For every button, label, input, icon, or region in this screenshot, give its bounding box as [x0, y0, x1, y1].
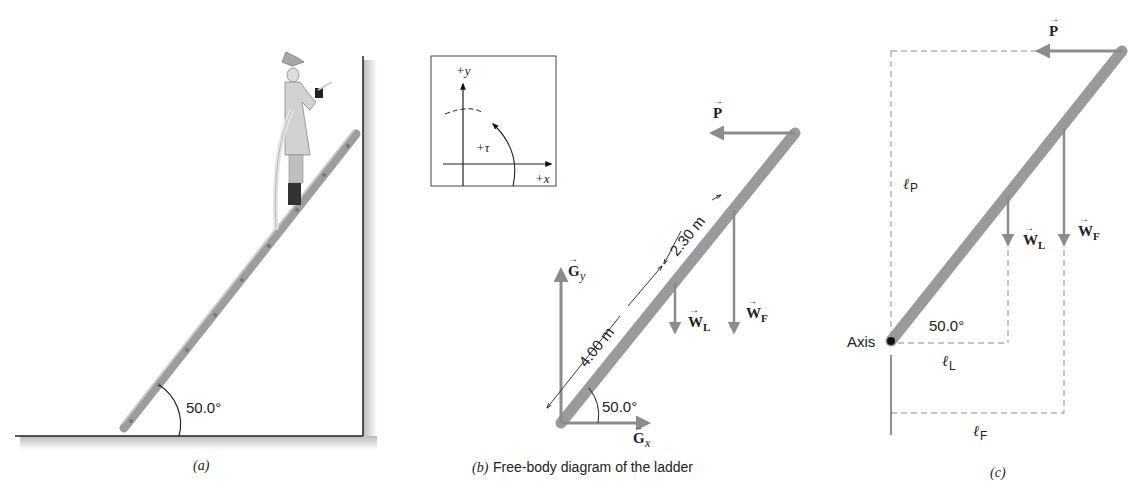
angle-label-b: 50.0°: [602, 398, 637, 415]
ladder-figure: 50.0° (a) +y +x +τ 4.00 m: [0, 0, 1144, 497]
angle-label: 50.0°: [186, 399, 221, 416]
ladder-bar: [561, 133, 795, 423]
svg-text:L: L: [703, 321, 710, 333]
ladder-bar-c: [891, 51, 1122, 341]
svg-text:P: P: [713, 105, 722, 121]
svg-text:y: y: [579, 269, 586, 283]
svg-text:F: F: [980, 429, 987, 443]
svg-text:W: W: [746, 305, 761, 321]
svg-text:ℓ: ℓ: [973, 423, 979, 439]
ladder: [122, 130, 356, 428]
label-P: P →: [713, 95, 723, 121]
svg-text:P: P: [1049, 23, 1058, 39]
label-Gx: G x →: [633, 421, 651, 450]
svg-text:→: →: [1079, 213, 1089, 224]
axes-legend-box: +y +x +τ: [431, 56, 556, 186]
floor-shadow: [20, 436, 377, 450]
svg-text:ℓ: ℓ: [942, 353, 948, 369]
svg-text:W: W: [1078, 223, 1093, 239]
wall-shadow: [363, 60, 377, 440]
panel-b: +y +x +τ 4.00 m 2.30 m 50.0° P →: [431, 56, 795, 476]
panel-c: P → W L → W F → ℓ P ℓ L ℓ F 50.0° Axis (…: [847, 13, 1122, 481]
lever-arm-lL: ℓ L: [942, 353, 956, 373]
label-WL-c: W L →: [1023, 222, 1045, 251]
lever-arm-lP: ℓ P: [903, 176, 918, 195]
label-WF-c: W F →: [1078, 213, 1100, 242]
label-Gy: G y →: [568, 253, 586, 283]
caption-a: (a): [193, 458, 210, 474]
svg-text:G: G: [633, 430, 645, 446]
caption-b-prefix: (b): [472, 460, 489, 476]
svg-text:x: x: [644, 436, 651, 450]
lever-arm-lF: ℓ F: [973, 423, 987, 443]
axis-pivot-point: [887, 337, 895, 345]
dim-2-30m-upper: [712, 195, 721, 200]
y-axis-label: +y: [456, 63, 471, 78]
svg-text:→: →: [1024, 222, 1034, 233]
svg-text:F: F: [1093, 230, 1100, 242]
svg-text:→: →: [1049, 13, 1059, 24]
panel-a: 50.0° (a): [15, 52, 377, 474]
caption-c: (c): [990, 465, 1006, 481]
angle-label-c: 50.0°: [929, 317, 964, 334]
label-WF: W F →: [746, 295, 768, 324]
torque-label: +τ: [476, 140, 491, 155]
svg-text:G: G: [568, 263, 580, 279]
svg-text:L: L: [949, 359, 956, 373]
svg-text:L: L: [1038, 239, 1045, 251]
svg-text:→: →: [747, 295, 757, 306]
label-P-c: P →: [1049, 13, 1059, 39]
svg-text:→: →: [689, 304, 699, 315]
caption-b-text: Free-body diagram of the ladder: [493, 459, 693, 475]
angle-arc: [159, 385, 181, 436]
svg-text:F: F: [761, 312, 768, 324]
svg-text:W: W: [688, 314, 703, 330]
svg-text:→: →: [713, 95, 723, 106]
svg-text:→: →: [568, 253, 578, 264]
label-WL: W L →: [688, 304, 710, 333]
svg-text:P: P: [910, 181, 918, 195]
svg-text:ℓ: ℓ: [903, 176, 909, 192]
svg-text:→: →: [633, 421, 643, 432]
svg-text:W: W: [1023, 232, 1038, 248]
x-axis-label: +x: [535, 171, 550, 186]
axis-label: Axis: [847, 333, 875, 350]
